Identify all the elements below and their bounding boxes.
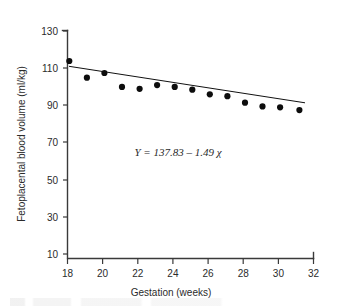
y-axis-tick-labels: 130 110 90 70 50 30 10 <box>41 26 58 260</box>
y-tick-label-130: 130 <box>41 26 58 37</box>
data-point <box>224 93 230 99</box>
x-tick-label-18: 18 <box>62 268 74 279</box>
axes-group <box>63 31 314 259</box>
y-tick-label-50: 50 <box>47 175 59 186</box>
data-point <box>137 86 143 92</box>
data-point <box>66 58 72 64</box>
x-axis-ticks <box>68 259 314 265</box>
data-point <box>119 84 125 90</box>
data-point <box>296 107 302 113</box>
y-tick-label-110: 110 <box>42 63 58 74</box>
y-tick-label-10: 10 <box>47 249 59 260</box>
axis-lines <box>68 31 314 259</box>
data-point <box>84 75 90 81</box>
x-tick-label-22: 22 <box>132 268 144 279</box>
caption-partial-text <box>10 298 330 306</box>
data-point <box>189 87 195 93</box>
x-axis-tick-labels: 18 20 22 24 26 28 30 32 <box>62 268 320 279</box>
scatter-chart: 130 110 90 70 50 30 10 18 20 22 24 26 28 <box>0 0 341 307</box>
y-tick-label-70: 70 <box>47 137 59 148</box>
y-tick-label-30: 30 <box>47 212 59 223</box>
data-point <box>277 104 283 110</box>
x-tick-label-32: 32 <box>308 268 320 279</box>
data-point <box>154 82 160 88</box>
x-tick-label-20: 20 <box>97 268 109 279</box>
data-point <box>172 84 178 90</box>
regression-equation-annotation: Y = 137.83 – 1.49 χ <box>134 146 222 158</box>
x-axis-title: Gestation (weeks) <box>131 287 212 298</box>
data-point <box>101 70 107 76</box>
figure-container: 130 110 90 70 50 30 10 18 20 22 24 26 28 <box>0 0 341 307</box>
x-tick-label-24: 24 <box>167 268 179 279</box>
data-point <box>259 103 265 109</box>
data-point <box>242 100 248 106</box>
x-tick-label-26: 26 <box>203 268 215 279</box>
data-points-group <box>66 58 302 113</box>
data-point <box>207 91 213 97</box>
x-tick-label-30: 30 <box>273 268 285 279</box>
y-axis-title: Fetoplacental blood volume (ml/kg) <box>16 66 27 222</box>
x-tick-label-28: 28 <box>238 268 250 279</box>
y-tick-label-90: 90 <box>47 100 59 111</box>
